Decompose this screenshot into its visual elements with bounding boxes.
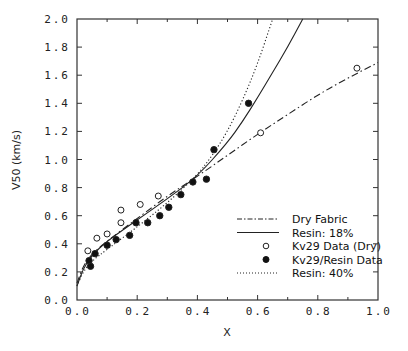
filled-data-point bbox=[178, 191, 184, 197]
y-tick-label: 1.8 bbox=[44, 41, 70, 54]
open-data-point bbox=[155, 193, 161, 199]
open-data-point bbox=[85, 248, 91, 254]
open-data-point bbox=[94, 235, 100, 241]
filled-data-point bbox=[87, 263, 93, 269]
open-data-point bbox=[118, 207, 124, 213]
legend-label: Dry Fabric bbox=[292, 213, 348, 226]
filled-data-point bbox=[157, 213, 163, 219]
y-tick-label: 0.4 bbox=[44, 238, 70, 251]
open-data-point bbox=[118, 220, 124, 226]
y-tick-label: 0.2 bbox=[44, 266, 70, 279]
y-tick-label: 1.0 bbox=[44, 154, 70, 167]
x-tick-label: 0.8 bbox=[306, 305, 332, 318]
filled-data-point bbox=[126, 232, 132, 238]
x-tick-label: 0.4 bbox=[185, 305, 211, 318]
legend-label: Resin: 18% bbox=[292, 227, 353, 240]
filled-data-point bbox=[145, 220, 151, 226]
filled-data-point bbox=[211, 146, 217, 152]
x-axis-title: X bbox=[223, 326, 231, 339]
open-data-point bbox=[354, 65, 360, 71]
legend-label: Kv29 Data (Dry) bbox=[292, 240, 381, 253]
filled-data-point bbox=[104, 242, 110, 248]
filled-data-point bbox=[133, 220, 139, 226]
y-tick-label: 1.4 bbox=[44, 97, 70, 110]
y-axis-title: V50 (km/s) bbox=[10, 130, 23, 190]
y-tick-label: 1.2 bbox=[44, 125, 70, 138]
legend-label: Resin: 40% bbox=[292, 267, 353, 280]
y-tick-label: 0.6 bbox=[44, 210, 70, 223]
legend-filled-circle-icon bbox=[263, 257, 269, 263]
legend: Dry FabricResin: 18%Kv29 Data (Dry)Kv29/… bbox=[237, 213, 383, 280]
open-data-point bbox=[258, 130, 264, 136]
x-tick-label: 0.2 bbox=[125, 305, 151, 318]
filled-data-point bbox=[92, 250, 98, 256]
y-tick-label: 0.8 bbox=[44, 182, 70, 195]
open-data-point bbox=[104, 231, 110, 237]
y-tick-label: 2.0 bbox=[44, 13, 70, 26]
filled-data-point bbox=[166, 204, 172, 210]
chart: 0.00.20.40.60.81.0 0.00.20.40.60.81.01.2… bbox=[0, 0, 408, 351]
filled-data-point bbox=[245, 100, 251, 106]
x-tick-label: 0.6 bbox=[246, 305, 272, 318]
filled-data-point bbox=[203, 176, 209, 182]
y-tick-label: 0.0 bbox=[44, 294, 70, 307]
legend-label: Kv29/Resin Data bbox=[292, 254, 383, 267]
filled-data-point bbox=[113, 236, 119, 242]
filled-data-point bbox=[190, 179, 196, 185]
y-tick-label: 1.6 bbox=[44, 69, 70, 82]
open-data-point bbox=[137, 201, 143, 207]
x-tick-label: 1.0 bbox=[366, 305, 392, 318]
legend-open-circle-icon bbox=[263, 243, 269, 249]
